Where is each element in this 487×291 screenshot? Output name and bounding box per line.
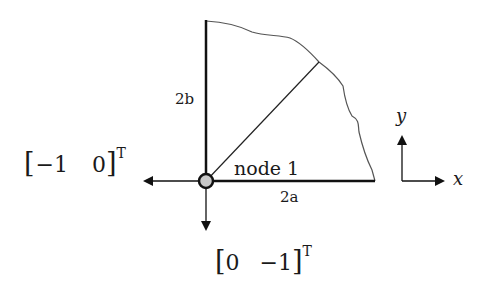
node-label: node 1 <box>234 159 299 178</box>
axis-x-text: x <box>453 168 463 189</box>
width-label: 2a <box>280 190 299 205</box>
vector-component-1: 0 <box>226 250 240 275</box>
left-vector-label: [−10]T <box>24 146 126 176</box>
bracket-open: [ <box>24 147 35 178</box>
bracket-open: [ <box>215 245 226 276</box>
height-label: 2b <box>175 92 194 107</box>
down-vector-label: [0−1]T <box>215 244 312 274</box>
axis-y-text: y <box>396 105 406 126</box>
axis-x-label: x <box>453 170 463 188</box>
transpose-sup: T <box>303 243 312 259</box>
node-1-marker <box>199 174 213 188</box>
axis-y-label: y <box>396 107 406 125</box>
vector-component-1: −1 <box>36 152 68 177</box>
bracket-close: ] <box>292 245 303 276</box>
node-label-text: node 1 <box>234 157 299 179</box>
bracket-close: ] <box>106 147 117 178</box>
transpose-sup: T <box>117 145 126 161</box>
vector-component-2: −1 <box>260 250 292 275</box>
width-label-text: 2a <box>280 188 299 206</box>
vector-component-2: 0 <box>92 152 106 177</box>
height-label-text: 2b <box>175 90 194 108</box>
